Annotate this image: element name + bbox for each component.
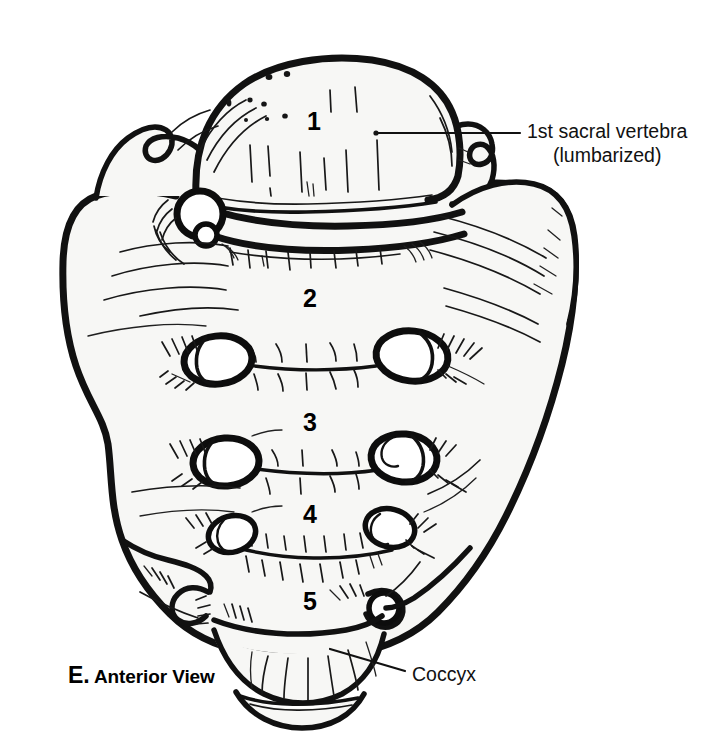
leader-dot-s1 bbox=[373, 130, 378, 135]
vertebra-number-4: 4 bbox=[303, 500, 317, 528]
panel-view-label: E. Anterior View bbox=[68, 662, 215, 689]
vertebra-number-1: 1 bbox=[307, 107, 321, 135]
view-name: Anterior View bbox=[94, 666, 215, 687]
panel-letter: E. bbox=[68, 662, 90, 688]
sacrum-illustration: 1 2 3 4 5 bbox=[0, 0, 702, 751]
callout-coccyx-line1: Coccyx bbox=[412, 663, 476, 685]
callout-label-coccyx: Coccyx bbox=[412, 663, 476, 687]
callout-label-s1-vertebra: 1st sacral vertebra (lumbarized) bbox=[527, 120, 687, 168]
vertebra-number-5: 5 bbox=[303, 587, 317, 615]
callout-s1-line2: (lumbarized) bbox=[527, 144, 687, 168]
anatomical-figure: 1 2 3 4 5 1st sacral vertebra (lumbarize… bbox=[0, 0, 702, 751]
s1-vertebral-body-group bbox=[172, 58, 470, 212]
vertebra-number-3: 3 bbox=[303, 408, 317, 436]
callout-s1-line1: 1st sacral vertebra bbox=[527, 120, 687, 142]
vertebra-number-2: 2 bbox=[303, 284, 317, 312]
